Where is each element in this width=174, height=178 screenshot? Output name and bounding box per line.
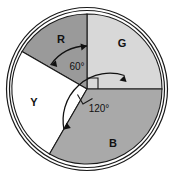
sector-label-B: B bbox=[109, 137, 117, 149]
angle-label-120: 120° bbox=[89, 103, 110, 114]
diagram-canvas: G R Y B 60° 120° bbox=[0, 0, 174, 178]
angle-label-60: 60° bbox=[69, 61, 84, 72]
sector-label-R: R bbox=[57, 33, 65, 45]
sector-group bbox=[12, 14, 162, 164]
sector-label-G: G bbox=[118, 37, 127, 49]
sector-label-Y: Y bbox=[30, 96, 38, 108]
pie-circle-angle-diagram: G R Y B 60° 120° bbox=[0, 0, 174, 178]
